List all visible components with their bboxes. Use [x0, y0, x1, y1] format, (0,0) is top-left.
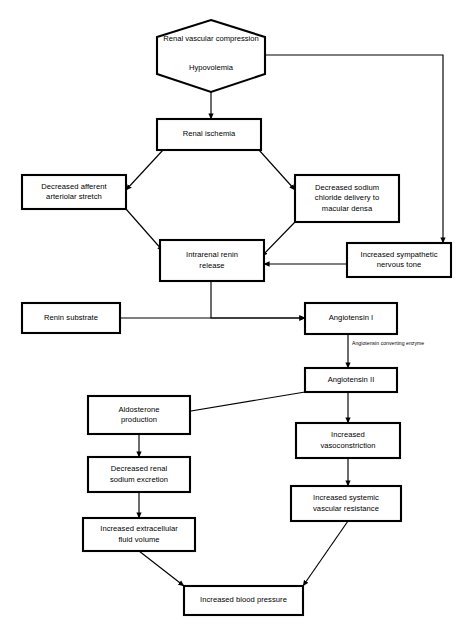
- node-sympathetic-tone: [347, 243, 451, 277]
- node-trigger-label-secondary: Hypovolemia: [157, 62, 265, 73]
- edge-ischemia-to-macula-densa: [259, 150, 295, 190]
- edge-ischemia-to-afferent-stretch: [126, 150, 163, 190]
- node-blood-pressure: [184, 586, 303, 615]
- node-renin-substrate: [22, 303, 120, 333]
- edge-fluid-volume-to-blood-pressure: [139, 551, 184, 586]
- trigger-line-2: compression: [216, 34, 259, 43]
- node-trigger-label: Renal vascular compression: [157, 33, 265, 44]
- edge-label-converting-enzyme: Angiotensin converting enzyme: [352, 340, 424, 347]
- node-vasoconstriction: [296, 423, 400, 458]
- node-fluid-volume: [83, 518, 195, 551]
- edge-afferent-stretch-to-renin-release: [126, 209, 163, 251]
- trigger-line-1: Renal vascular: [163, 34, 213, 43]
- diagram-graphics: [0, 0, 471, 637]
- node-aldosterone: [88, 396, 190, 434]
- edge-angiotensin-ii-to-aldosterone: [173, 392, 305, 414]
- node-renin-release: [160, 240, 264, 281]
- edge-vascular-resistance-to-blood-pressure: [303, 521, 348, 586]
- node-macula-densa: [295, 175, 399, 222]
- flowchart-canvas: Renal vascular compression Hypovolemia R…: [0, 0, 471, 637]
- node-trigger-hexagon: [157, 20, 265, 92]
- node-angiotensin-i: [305, 303, 397, 334]
- node-angiotensin-ii: [305, 368, 397, 392]
- edge-macula-densa-to-renin-release: [262, 222, 295, 256]
- node-sodium-excretion: [88, 457, 190, 492]
- node-vascular-resistance: [291, 486, 401, 521]
- node-renal-ischemia: [157, 119, 261, 150]
- trigger-line-3: Hypovolemia: [189, 63, 233, 72]
- node-afferent-stretch: [22, 175, 126, 209]
- edge-renin-release-to-angiotensin-i: [211, 281, 305, 318]
